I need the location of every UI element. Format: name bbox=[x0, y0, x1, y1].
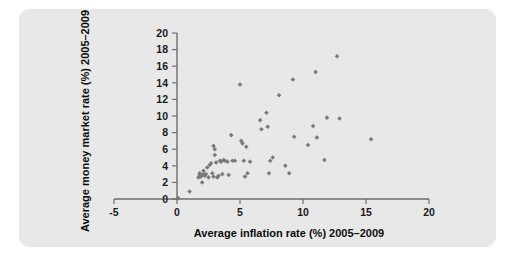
data-point bbox=[243, 174, 248, 179]
data-point bbox=[287, 171, 292, 176]
data-point bbox=[335, 54, 340, 59]
data-point bbox=[213, 153, 218, 158]
data-point bbox=[245, 171, 250, 176]
data-point bbox=[229, 133, 234, 138]
data-point bbox=[291, 77, 296, 82]
y-tick-label-6: 12 bbox=[156, 93, 168, 105]
data-point bbox=[201, 168, 206, 173]
data-point bbox=[322, 158, 327, 163]
data-point bbox=[244, 144, 249, 149]
data-point bbox=[315, 135, 320, 140]
x-tick-label-1: 0 bbox=[174, 206, 180, 218]
data-point bbox=[238, 82, 243, 87]
y-tick-label-1: 2 bbox=[162, 176, 168, 188]
y-tick-label-10: 20 bbox=[156, 27, 168, 39]
data-point bbox=[258, 118, 263, 123]
y-tick-label-2: 4 bbox=[162, 160, 168, 172]
data-points-group bbox=[176, 54, 373, 201]
chart-panel: -50510152002468101214161820 Average infl… bbox=[19, 9, 496, 247]
y-axis-title: Average money market rate (%) 2005–2009 bbox=[79, 10, 91, 232]
y-tick-label-3: 6 bbox=[162, 143, 168, 155]
data-point bbox=[306, 143, 311, 148]
data-point bbox=[277, 93, 282, 98]
data-point bbox=[264, 110, 269, 115]
data-point bbox=[187, 189, 192, 194]
y-tick-label-0: 0 bbox=[162, 193, 168, 205]
data-point bbox=[233, 159, 238, 164]
data-point bbox=[313, 70, 318, 75]
x-tick-label-2: 5 bbox=[237, 206, 243, 218]
data-point bbox=[267, 171, 272, 176]
x-tick-label-0: -5 bbox=[109, 206, 118, 218]
data-point bbox=[265, 124, 270, 129]
y-tick-label-8: 16 bbox=[156, 60, 168, 72]
axes-group: -50510152002468101214161820 bbox=[109, 27, 435, 218]
y-tick-label-4: 8 bbox=[162, 126, 168, 138]
data-point bbox=[248, 159, 253, 164]
scatter-plot-svg: -50510152002468101214161820 Average infl… bbox=[19, 9, 496, 247]
data-point bbox=[259, 127, 264, 132]
data-point bbox=[325, 115, 330, 120]
data-point bbox=[292, 134, 297, 139]
data-point bbox=[200, 180, 205, 185]
y-tick-label-5: 10 bbox=[156, 110, 168, 122]
data-point bbox=[337, 116, 342, 121]
x-tick-label-3: 10 bbox=[297, 206, 309, 218]
x-tick-label-4: 15 bbox=[360, 206, 372, 218]
y-tick-label-7: 14 bbox=[156, 77, 168, 89]
x-axis-title: Average inflation rate (%) 2005–2009 bbox=[194, 227, 384, 239]
x-tick-label-5: 20 bbox=[423, 206, 435, 218]
data-point bbox=[311, 124, 316, 129]
data-point bbox=[241, 159, 246, 164]
data-point bbox=[226, 173, 231, 178]
data-point bbox=[369, 137, 374, 142]
data-point bbox=[270, 155, 275, 160]
data-point bbox=[268, 159, 273, 164]
scatter-plot: -50510152002468101214161820 Average infl… bbox=[19, 9, 496, 247]
data-point bbox=[283, 164, 288, 169]
y-tick-label-9: 18 bbox=[156, 43, 168, 55]
